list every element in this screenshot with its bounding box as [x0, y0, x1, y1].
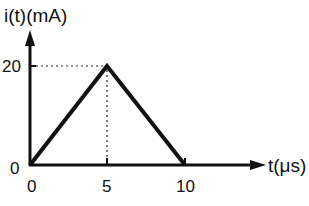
x-axis-label: t(μs) [268, 156, 306, 175]
x-tick-label-5: 5 [102, 178, 111, 195]
x-tick-label-0: 0 [27, 178, 36, 195]
chart-canvas [0, 0, 309, 206]
y-axis-label: i(t)(mA) [4, 6, 67, 25]
y-tick-label-20: 20 [2, 58, 21, 75]
y-axis-arrow-icon [25, 30, 35, 46]
y-tick-label-0: 0 [10, 160, 19, 177]
x-axis-arrow-icon [250, 160, 266, 170]
x-tick-label-10: 10 [176, 178, 195, 195]
